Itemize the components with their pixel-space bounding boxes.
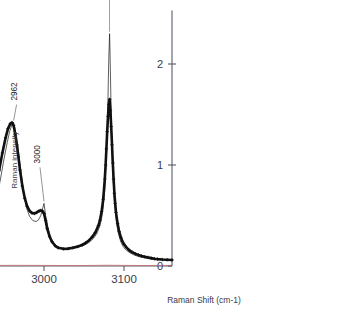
x-axis-label: Raman Shift (cm-1) <box>167 295 241 305</box>
peak-label-2962: 2962 <box>10 82 19 101</box>
peak-label-3000: 3000 <box>33 145 42 164</box>
y-tick-label: 2 <box>157 58 163 70</box>
raman-spectrum-chart: 012310030002900 308230002945296229092894… <box>0 0 362 323</box>
y-axis-label: Raman intensity <box>10 131 19 188</box>
y-tick-label: 1 <box>157 159 163 171</box>
y-tick-label: 0 <box>157 260 163 272</box>
x-tick-label: 3000 <box>31 273 57 285</box>
x-tick-label: 3100 <box>111 273 137 285</box>
